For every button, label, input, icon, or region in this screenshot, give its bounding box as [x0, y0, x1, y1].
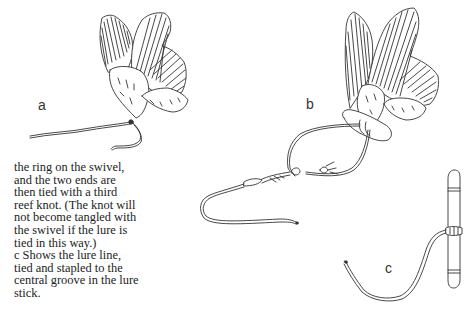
caption-line: the ring on the swivel, [14, 161, 174, 174]
panel-b-wings-drawing [201, 8, 439, 224]
caption-line: stick. [14, 287, 174, 300]
panel-a-wings-drawing [30, 13, 188, 150]
book-page: a b c the ring on the swivel, and the tw… [0, 0, 469, 315]
panel-label-c: c [385, 260, 392, 276]
caption-line: the swivel if the lure is [14, 224, 174, 237]
figure-caption: the ring on the swivel, and the two ends… [14, 161, 174, 300]
caption-line: c Shows the lure line, [14, 249, 174, 262]
panel-label-b: b [306, 96, 314, 112]
panel-label-a: a [38, 97, 46, 113]
caption-line: then tied with a third [14, 186, 174, 199]
panel-c-lure-stick-drawing [344, 170, 462, 301]
